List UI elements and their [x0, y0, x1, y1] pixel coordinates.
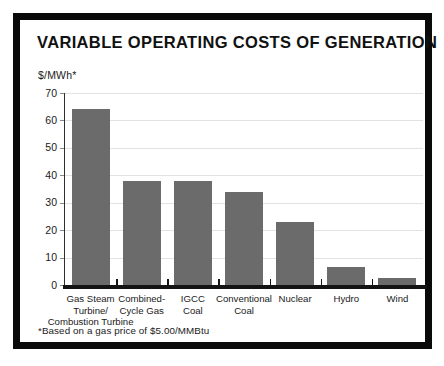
bar	[174, 181, 212, 285]
bar	[225, 192, 263, 285]
bar	[276, 222, 314, 285]
plot-area: 706050403020100 Gas SteamTurbine/Combust…	[65, 93, 423, 285]
bar	[378, 278, 416, 285]
y-axis-tick-label: 20	[21, 224, 57, 236]
gridline	[65, 93, 423, 94]
chart-inner-border: VARIABLE OPERATING COSTS OF GENERATION $…	[20, 20, 425, 342]
y-axis-tick-label: 70	[21, 87, 57, 99]
bar	[72, 109, 110, 285]
chart-title: VARIABLE OPERATING COSTS OF GENERATION	[37, 33, 437, 52]
y-axis-tick-label: 60	[21, 114, 57, 126]
gridline	[65, 120, 423, 121]
y-axis-tick-label: 30	[21, 196, 57, 208]
chart-frame: VARIABLE OPERATING COSTS OF GENERATION $…	[13, 13, 432, 349]
gridline	[65, 148, 423, 149]
y-axis-tick-label: 10	[21, 251, 57, 263]
y-axis-label: $/MWh*	[38, 69, 77, 81]
y-axis-tick-label: 0	[21, 279, 57, 291]
category-label-line: Coal	[198, 305, 290, 317]
category-label-line: Wind	[351, 293, 443, 305]
gridline	[65, 175, 423, 176]
y-axis-tick-label: 40	[21, 169, 57, 181]
bar	[327, 267, 365, 285]
bar	[123, 181, 161, 285]
y-axis-line	[64, 93, 65, 285]
x-axis-category-label: Wind	[351, 293, 443, 305]
chart-footnote: *Based on a gas price of $5.00/MMBtu	[38, 325, 209, 336]
x-axis-line	[63, 285, 427, 289]
y-axis-tick-label: 50	[21, 141, 57, 153]
